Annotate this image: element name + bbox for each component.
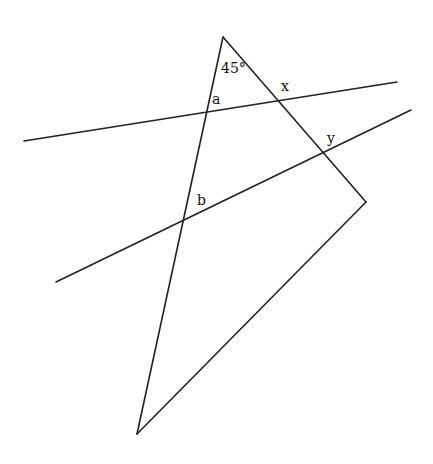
angle-label-45: 45° xyxy=(221,60,246,76)
side-bottom-top xyxy=(137,37,223,434)
angle-label-b: b xyxy=(197,192,206,208)
transversal-upper xyxy=(24,82,397,141)
angle-label-y: y xyxy=(326,130,335,146)
angle-label-a: a xyxy=(212,91,220,107)
side-right-bottom xyxy=(137,202,366,434)
transversal-lower xyxy=(56,110,411,282)
geometry-diagram: 45° a x y b xyxy=(0,0,433,464)
angle-label-x: x xyxy=(281,78,289,94)
